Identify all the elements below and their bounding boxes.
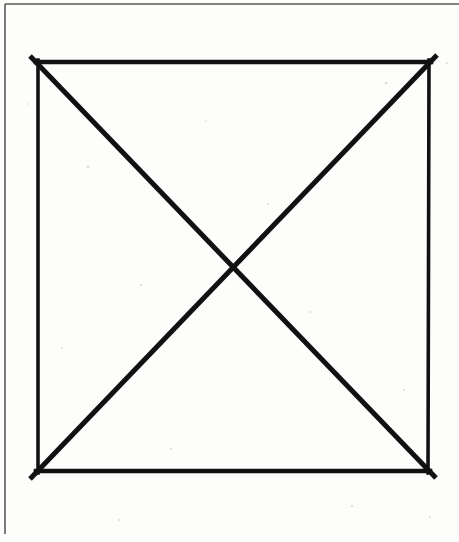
scan-speckle [87, 166, 90, 169]
scan-speckle [309, 311, 311, 313]
scan-speckle [446, 62, 448, 64]
scan-speckle [429, 516, 431, 518]
square-right-edge [428, 60, 429, 473]
scan-speckle [170, 448, 172, 450]
scan-speckle [140, 284, 142, 286]
scan-speckle [267, 203, 269, 205]
figure-canvas: A hand-drawn black square outline with t… [0, 0, 459, 542]
scan-speckle [61, 347, 63, 349]
scan-speckle [205, 120, 207, 122]
scan-speckle [118, 519, 120, 521]
scan-speckle [27, 103, 29, 105]
scan-speckle [403, 389, 405, 391]
square-with-diagonals-figure [0, 0, 459, 542]
scan-speckle [351, 505, 353, 507]
scan-speckle [385, 82, 387, 84]
